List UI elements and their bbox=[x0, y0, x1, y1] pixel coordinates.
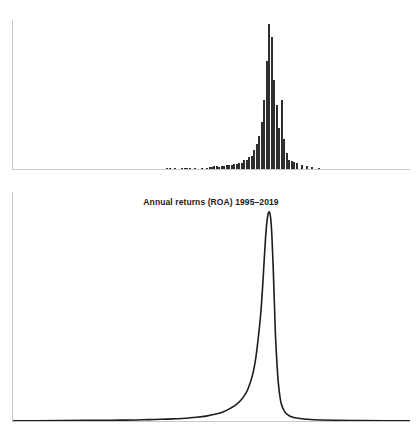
histogram-plot-area bbox=[12, 20, 410, 170]
density-chart-title: Annual returns (ROA) 1995–2019 bbox=[12, 192, 410, 207]
histogram-bar-group bbox=[12, 20, 410, 169]
density-panel: Annual returns (ROA) 1995–2019 bbox=[12, 192, 410, 422]
histogram-x-axis-spine bbox=[12, 169, 410, 170]
density-x-axis-spine bbox=[12, 421, 410, 422]
density-curve-path bbox=[12, 212, 410, 421]
histogram-y-axis-spine bbox=[12, 20, 13, 170]
histogram-panel bbox=[12, 20, 410, 170]
density-curve-svg bbox=[12, 192, 410, 422]
figure-root: Annual returns (ROA) 1995–2019 bbox=[0, 0, 419, 430]
density-y-axis-spine bbox=[12, 192, 13, 422]
density-plot-area: Annual returns (ROA) 1995–2019 bbox=[12, 192, 410, 422]
